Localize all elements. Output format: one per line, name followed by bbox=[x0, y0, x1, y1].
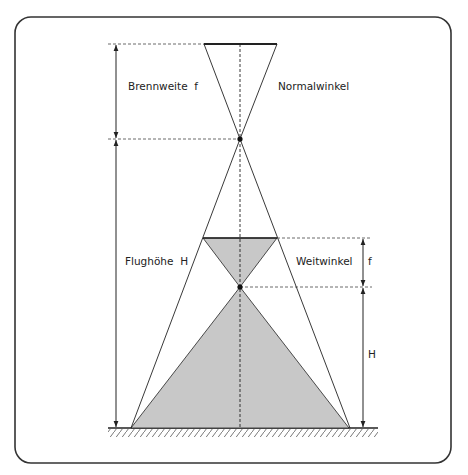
flight-height-label: Flughöhe H bbox=[125, 255, 188, 267]
f-label: f bbox=[368, 255, 372, 267]
camera-angle-diagram: Brennweite f Normalwinkel Flughöhe H Wei… bbox=[0, 0, 468, 475]
wide-angle-label: Weitwinkel bbox=[296, 255, 353, 267]
ground bbox=[108, 428, 378, 437]
normal-focal-point bbox=[237, 136, 242, 141]
h-label: H bbox=[368, 348, 376, 360]
focal-length-label: Brennweite f bbox=[128, 80, 198, 92]
normal-angle-label: Normalwinkel bbox=[278, 80, 349, 92]
wide-focal-point bbox=[237, 284, 242, 289]
